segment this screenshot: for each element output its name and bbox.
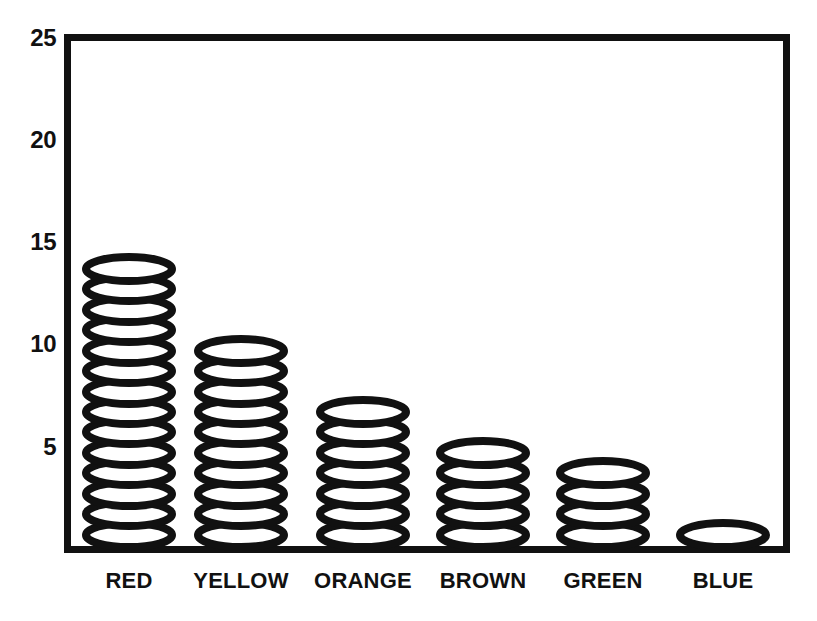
bar-stack-red xyxy=(81,252,177,572)
disc-unit xyxy=(315,395,411,429)
disc-unit xyxy=(675,518,771,552)
disc-unit xyxy=(555,456,651,490)
chart-figure: 252015105 REDYELLOWORANGEBROWNGREENBLUE xyxy=(0,0,817,621)
bar-stack-orange xyxy=(315,395,411,572)
disc-unit xyxy=(81,252,177,286)
bar-stack-yellow xyxy=(193,334,289,573)
disc-unit xyxy=(193,334,289,368)
disc-unit xyxy=(435,436,531,470)
x-axis-tick-blue: BLUE xyxy=(643,570,803,592)
